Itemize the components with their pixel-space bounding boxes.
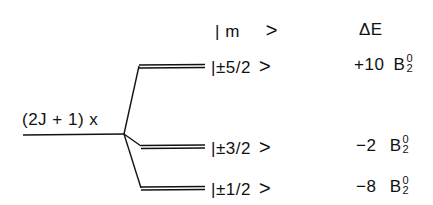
level-line-3-2 (141, 145, 205, 149)
state-header-close: > (266, 19, 278, 41)
state-label-3-2: |±3/2> (211, 137, 271, 157)
state-label-1-2: |±1/2> (211, 178, 271, 198)
state-header: | m> (215, 20, 278, 40)
state-header-label: | m (215, 22, 240, 41)
energy-level-diagram: (2J + 1) x | m> ΔE |±5/2> +10 B02 |±3/2>… (0, 0, 433, 205)
branch-line-lower (124, 134, 141, 188)
level-line-5-2 (139, 65, 205, 69)
unsplit-level-label: (2J + 1) x (22, 111, 98, 128)
level-line-1-2 (141, 187, 205, 191)
unsplit-level-line (23, 134, 124, 135)
energy-value-5-2: +10 B02 (354, 56, 405, 73)
energy-value-1-2: −8 B02 (356, 178, 401, 195)
state-label-5-2: |±5/2> (211, 56, 271, 76)
energy-header: ΔE (359, 21, 383, 38)
energy-value-3-2: −2 B02 (356, 137, 401, 154)
branch-line-upper (124, 66, 139, 134)
